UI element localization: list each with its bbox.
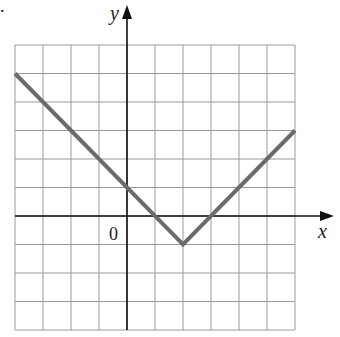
y-axis-label: y <box>108 2 119 25</box>
x-axis-label: x <box>317 220 327 242</box>
y-axis-arrow-icon <box>122 5 132 19</box>
grid <box>15 45 295 330</box>
figure-marker: . <box>0 0 5 16</box>
graph: y x 0 . <box>0 0 340 337</box>
origin-label: 0 <box>109 224 118 244</box>
axes <box>15 5 334 330</box>
